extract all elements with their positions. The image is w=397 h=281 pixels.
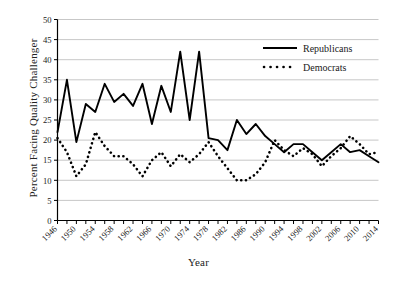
x-tick-label: 2010: [342, 224, 361, 243]
x-tick-label: 1994: [266, 223, 286, 243]
legend-label-republicans: Republicans: [303, 43, 353, 54]
x-tick-label: 1978: [191, 224, 210, 243]
x-tick-label: 1974: [172, 223, 192, 243]
x-tick-label: 1990: [247, 224, 266, 243]
x-tick-label: 1958: [96, 224, 115, 243]
x-tick-label: 1970: [153, 224, 172, 243]
y-tick-label: 5: [47, 196, 51, 206]
y-tick-label: 25: [43, 115, 52, 125]
y-tick-label: 45: [43, 35, 52, 45]
y-tick-label: 30: [43, 95, 52, 105]
x-tick-label: 1954: [77, 223, 97, 243]
y-tick-label: 20: [43, 135, 52, 145]
x-axis-ticks: 1946195019541958196219661970197419781982…: [40, 221, 381, 244]
y-tick-label: 40: [43, 55, 52, 65]
chart-figure: Percent Facing Quality Challenger Year 0…: [0, 0, 397, 281]
x-tick-label: 1966: [134, 223, 154, 243]
x-tick-label: 2002: [304, 224, 323, 243]
x-tick-label: 2014: [361, 223, 381, 243]
x-tick-label: 1962: [115, 224, 134, 243]
line-chart-plot: 05101520253035404550 1946195019541958196…: [0, 0, 397, 281]
y-axis-ticks: 05101520253035404550: [43, 15, 58, 226]
y-tick-label: 10: [43, 176, 52, 186]
legend-label-democrats: Democrats: [303, 62, 346, 73]
y-tick-label: 35: [43, 75, 52, 85]
y-tick-label: 15: [43, 155, 52, 165]
y-tick-label: 50: [43, 15, 52, 25]
x-tick-label: 1982: [210, 224, 229, 243]
x-tick-label: 1998: [285, 224, 304, 243]
x-tick-label: 1946: [40, 223, 60, 243]
x-tick-label: 2006: [323, 223, 343, 243]
x-tick-label: 1986: [229, 223, 249, 243]
chart-legend: RepublicansDemocrats: [263, 43, 353, 73]
x-tick-label: 1950: [59, 224, 78, 243]
